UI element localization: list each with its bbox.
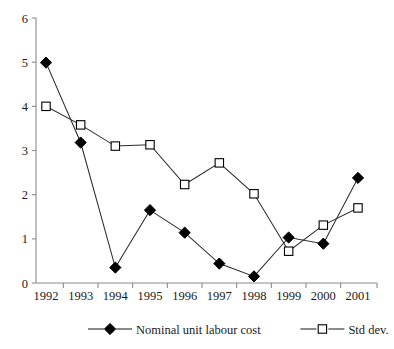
series-2: [42, 102, 362, 255]
legend-label: Std dev.: [348, 323, 388, 337]
data-point: [146, 141, 154, 149]
chart-container: 0123456 19921993199419951996199719981999…: [0, 0, 394, 349]
data-point: [76, 121, 84, 129]
series-line: [46, 106, 358, 251]
x-tick-label: 1998: [242, 289, 267, 303]
data-point: [180, 180, 188, 188]
data-point: [144, 205, 155, 216]
y-tick-label: 0: [22, 277, 28, 291]
data-point: [111, 142, 119, 150]
legend-item-2[interactable]: Std dev.: [300, 323, 388, 337]
x-tick-label: 1994: [103, 289, 129, 303]
y-tick-label: 1: [22, 232, 28, 246]
data-point: [250, 190, 258, 198]
data-point: [40, 57, 51, 68]
line-chart: 0123456 19921993199419951996199719981999…: [0, 0, 394, 349]
series-layer: [40, 57, 363, 282]
x-axis: 1992199319941995199619971998199920002001: [34, 283, 378, 303]
series-1: [40, 57, 363, 282]
legend-item-1[interactable]: Nominal unit labour cost: [88, 323, 261, 337]
y-tick-label: 2: [22, 188, 28, 202]
x-tick-label: 2000: [311, 289, 336, 303]
data-point: [110, 262, 121, 273]
legend-label: Nominal unit labour cost: [136, 323, 261, 337]
data-point: [354, 204, 362, 212]
data-point: [215, 159, 223, 167]
y-tick-label: 5: [22, 56, 28, 70]
data-point: [319, 221, 327, 229]
y-tick-label: 3: [22, 144, 28, 158]
y-axis: 0123456: [22, 12, 36, 291]
x-tick-label: 1997: [207, 289, 232, 303]
data-point: [284, 247, 292, 255]
data-point: [318, 238, 329, 249]
data-point: [75, 137, 86, 148]
x-tick-label: 1995: [138, 289, 163, 303]
x-tick-label: 1999: [276, 289, 301, 303]
x-tick-label: 1996: [172, 289, 197, 303]
y-tick-label: 6: [22, 12, 28, 26]
data-point: [352, 172, 363, 183]
chart-legend: Nominal unit labour costStd dev.: [88, 323, 389, 337]
data-point: [42, 102, 50, 110]
y-tick-label: 4: [22, 100, 29, 114]
series-line: [46, 63, 358, 277]
x-tick-label: 2001: [346, 289, 371, 303]
legend-square-icon: [318, 325, 326, 333]
legend-diamond-icon: [104, 323, 115, 334]
x-tick-label: 1993: [68, 289, 93, 303]
x-tick-label: 1992: [34, 289, 59, 303]
